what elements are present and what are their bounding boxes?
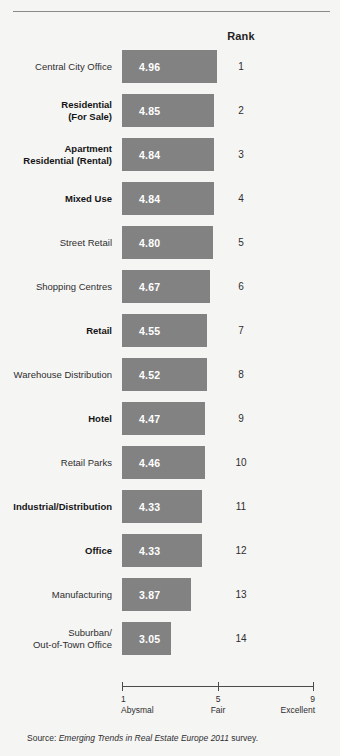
chart-row: Shopping Centres4.676 <box>0 270 340 314</box>
bar-value-label: 4.46 <box>139 446 160 479</box>
bar <box>122 50 217 83</box>
axis-tick-word: Fair <box>183 705 253 716</box>
bar-value-label: 4.47 <box>139 402 160 435</box>
bar-value-label: 4.85 <box>139 94 160 127</box>
chart-row: Mixed Use4.844 <box>0 182 340 226</box>
category-label: Mixed Use <box>0 182 112 215</box>
bar-value-label: 4.67 <box>139 270 160 303</box>
category-label: Shopping Centres <box>0 270 112 303</box>
bar <box>122 490 202 523</box>
source-note: Source: Emerging Trends in Real Estate E… <box>27 733 258 743</box>
rank-value: 2 <box>213 94 269 127</box>
category-label: Residential (For Sale) <box>0 94 112 127</box>
category-label: Warehouse Distribution <box>0 358 112 391</box>
axis-tick-label: 5Fair <box>183 694 253 716</box>
axis-tick <box>218 682 219 691</box>
category-label: Hotel <box>0 402 112 435</box>
bar-value-label: 3.87 <box>139 578 160 611</box>
category-label: Suburban/ Out-of-Town Office <box>0 622 112 655</box>
source-title: Emerging Trends in Real Estate Europe 20… <box>59 733 229 743</box>
bar-value-label: 4.80 <box>139 226 160 259</box>
axis-tick-number: 1 <box>121 694 191 705</box>
category-label: Retail <box>0 314 112 347</box>
rank-value: 7 <box>213 314 269 347</box>
rank-value: 9 <box>213 402 269 435</box>
chart-row: Street Retail4.805 <box>0 226 340 270</box>
bar-value-label: 4.84 <box>139 138 160 171</box>
rank-value: 11 <box>213 490 269 523</box>
category-label: Office <box>0 534 112 567</box>
axis-tick-number: 9 <box>245 694 315 705</box>
chart-row: Retail4.557 <box>0 314 340 358</box>
rank-column-header: Rank <box>213 30 269 42</box>
chart-row: Suburban/ Out-of-Town Office3.0514 <box>0 622 340 666</box>
rank-value: 3 <box>213 138 269 171</box>
rank-value: 5 <box>213 226 269 259</box>
chart-row: Office4.3312 <box>0 534 340 578</box>
rank-value: 6 <box>213 270 269 303</box>
category-label: Apartment Residential (Rental) <box>0 138 112 171</box>
bar-value-label: 4.84 <box>139 182 160 215</box>
rank-value: 13 <box>213 578 269 611</box>
chart-row: Warehouse Distribution4.528 <box>0 358 340 402</box>
axis-tick-number: 5 <box>183 694 253 705</box>
rank-value: 14 <box>213 622 269 655</box>
category-label: Street Retail <box>0 226 112 259</box>
axis-tick <box>313 682 314 691</box>
value-axis-labels: 1Abysmal5Fair9Excellent <box>122 694 314 724</box>
bar <box>122 402 205 435</box>
rank-value: 1 <box>213 50 269 83</box>
value-axis <box>122 686 314 687</box>
bar <box>122 138 214 171</box>
bar-value-label: 4.55 <box>139 314 160 347</box>
chart-row: Residential (For Sale)4.852 <box>0 94 340 138</box>
bar-chart-rows: Central City Office4.961Residential (For… <box>0 50 340 666</box>
bar-value-label: 4.33 <box>139 490 160 523</box>
bar <box>122 182 214 215</box>
rank-value: 4 <box>213 182 269 215</box>
category-label: Central City Office <box>0 50 112 83</box>
category-label: Manufacturing <box>0 578 112 611</box>
axis-tick-word: Excellent <box>245 705 315 716</box>
axis-tick <box>122 682 123 691</box>
category-label: Retail Parks <box>0 446 112 479</box>
rank-value: 8 <box>213 358 269 391</box>
bar <box>122 534 202 567</box>
bar-value-label: 4.33 <box>139 534 160 567</box>
bar <box>122 94 214 127</box>
bar <box>122 358 207 391</box>
chart-row: Hotel4.479 <box>0 402 340 446</box>
chart-row: Industrial/Distribution4.3311 <box>0 490 340 534</box>
bar-value-label: 3.05 <box>139 622 160 655</box>
bar <box>122 226 213 259</box>
bar <box>122 270 210 303</box>
chart-page: Rank Central City Office4.961Residential… <box>0 0 340 756</box>
bar <box>122 314 207 347</box>
source-prefix: Source: <box>27 733 56 743</box>
axis-tick-word: Abysmal <box>121 705 191 716</box>
chart-row: Manufacturing3.8713 <box>0 578 340 622</box>
top-divider <box>13 11 330 12</box>
rank-value: 10 <box>213 446 269 479</box>
bar-value-label: 4.52 <box>139 358 160 391</box>
axis-tick-label: 9Excellent <box>245 694 315 716</box>
source-suffix: survey. <box>231 733 258 743</box>
chart-row: Apartment Residential (Rental)4.843 <box>0 138 340 182</box>
rank-value: 12 <box>213 534 269 567</box>
chart-row: Retail Parks4.4610 <box>0 446 340 490</box>
category-label: Industrial/Distribution <box>0 490 112 523</box>
bar <box>122 446 205 479</box>
axis-tick-label: 1Abysmal <box>121 694 191 716</box>
bar-value-label: 4.96 <box>139 50 160 83</box>
chart-row: Central City Office4.961 <box>0 50 340 94</box>
